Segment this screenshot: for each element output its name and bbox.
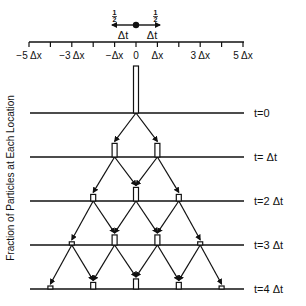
time-label: t= Δt <box>254 151 277 163</box>
axis-tick-label: −Δx <box>106 50 124 61</box>
fraction-bar <box>134 66 139 113</box>
transition-arrow <box>72 245 93 280</box>
transition-arrow <box>136 113 157 141</box>
transition-arrow <box>115 201 136 233</box>
right-step-label: Δt <box>147 29 157 41</box>
transition-arrow <box>157 157 178 192</box>
transition-arrow <box>72 201 93 240</box>
axis-tick-label: 0 <box>133 50 139 61</box>
transition-arrow <box>93 157 114 192</box>
transition-arrow <box>115 113 136 141</box>
step-legend: 1 2 1 2 Δt Δt <box>112 9 160 41</box>
fraction-bar <box>176 194 181 201</box>
left-fraction-den: 2 <box>113 16 117 23</box>
y-axis-label: Fraction of Particles at Each Location <box>5 95 16 261</box>
fraction-bar <box>198 242 203 245</box>
fraction-bar <box>112 235 117 245</box>
fraction-bar <box>91 194 96 201</box>
transition-arrow <box>93 201 114 233</box>
transition-arrow <box>50 245 71 284</box>
transition-arrow <box>136 201 157 233</box>
position-axis: −5 Δx−3 Δx−Δx0Δx3 Δx5 Δx <box>16 42 252 61</box>
transition-arrow <box>157 245 178 280</box>
fraction-bar <box>48 286 53 289</box>
fraction-bar <box>69 242 74 245</box>
time-label: t=0 <box>254 107 270 119</box>
diagram-canvas: 1 2 1 2 Δt Δt −5 Δx−3 Δx−Δx0Δx3 Δx5 Δx F… <box>0 0 306 306</box>
fraction-bar <box>91 282 96 289</box>
transition-arrow <box>136 157 157 185</box>
transition-arrow <box>179 201 200 240</box>
time-label: t=3 Δt <box>254 239 283 251</box>
transition-arrow <box>200 245 221 284</box>
axis-tick-label: 3 Δx <box>190 50 209 61</box>
transition-arrow <box>115 157 136 185</box>
right-fraction-den: 2 <box>154 16 158 23</box>
transition-arrow <box>157 201 178 233</box>
right-fraction-num: 1 <box>154 9 158 16</box>
random-walk-diagram: 1 2 1 2 Δt Δt −5 Δx−3 Δx−Δx0Δx3 Δx5 Δx F… <box>0 0 306 306</box>
fraction-bar <box>112 143 117 157</box>
axis-tick-label: −5 Δx <box>16 50 41 61</box>
left-fraction-num: 1 <box>113 9 117 16</box>
transition-arrow <box>179 245 200 280</box>
fraction-bar <box>155 235 160 245</box>
time-label: t=2 Δt <box>254 195 283 207</box>
axis-tick-label: Δx <box>152 50 164 61</box>
fraction-bar <box>176 282 181 289</box>
time-label: t=4 Δt <box>254 283 283 295</box>
left-step-label: Δt <box>118 29 128 41</box>
transition-arrow <box>93 245 114 280</box>
fraction-bar <box>134 187 139 201</box>
transition-arrow <box>136 245 157 277</box>
axis-tick-label: 5 Δx <box>233 50 252 61</box>
fraction-bar <box>134 279 139 289</box>
particle-dot-icon <box>133 22 139 28</box>
fraction-bar <box>155 143 160 157</box>
transition-arrow <box>115 245 136 277</box>
fraction-bar <box>219 286 224 289</box>
axis-tick-label: −3 Δx <box>59 50 84 61</box>
